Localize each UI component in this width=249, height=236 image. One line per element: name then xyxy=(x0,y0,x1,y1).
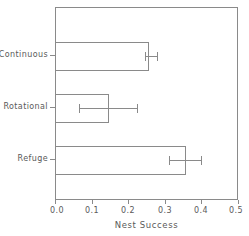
x-tick-mark-4 xyxy=(201,200,202,204)
x-tick-label-4: 0.4 xyxy=(194,206,208,216)
plot-area xyxy=(55,7,238,200)
errorbar-cap-high-continuous xyxy=(157,52,158,61)
x-axis-label: Nest Success xyxy=(55,220,238,230)
bar-refuge xyxy=(55,146,186,175)
x-tick-label-3: 0.3 xyxy=(158,206,172,216)
x-tick-mark-5 xyxy=(238,200,239,204)
x-tick-mark-1 xyxy=(92,200,93,204)
x-tick-mark-3 xyxy=(165,200,166,204)
x-tick-label-0: 0.0 xyxy=(50,206,64,216)
errorbar-line-refuge xyxy=(169,160,201,161)
y-tick-label-1: Rotational xyxy=(3,102,48,112)
errorbar-cap-high-rotational xyxy=(137,104,138,113)
x-tick-mark-0 xyxy=(55,200,56,204)
chart-figure: Continuous Rotational Refuge 0.0 0.1 0.2… xyxy=(0,0,249,236)
errorbar-cap-low-continuous xyxy=(145,52,146,61)
x-tick-mark-2 xyxy=(128,200,129,204)
errorbar-line-continuous xyxy=(145,56,157,57)
errorbar-cap-high-refuge xyxy=(201,156,202,165)
x-tick-label-1: 0.1 xyxy=(85,206,99,216)
x-tick-label-2: 0.2 xyxy=(121,206,135,216)
y-tick-label-2: Refuge xyxy=(18,154,48,164)
y-axis-labels: Continuous Rotational Refuge xyxy=(0,0,48,236)
y-tick-label-0: Continuous xyxy=(0,50,48,60)
x-tick-label-5: 0.5 xyxy=(229,206,243,216)
errorbar-cap-low-refuge xyxy=(169,156,170,165)
errorbar-cap-low-rotational xyxy=(79,104,80,113)
bar-continuous xyxy=(55,42,149,71)
errorbar-line-rotational xyxy=(79,108,137,109)
